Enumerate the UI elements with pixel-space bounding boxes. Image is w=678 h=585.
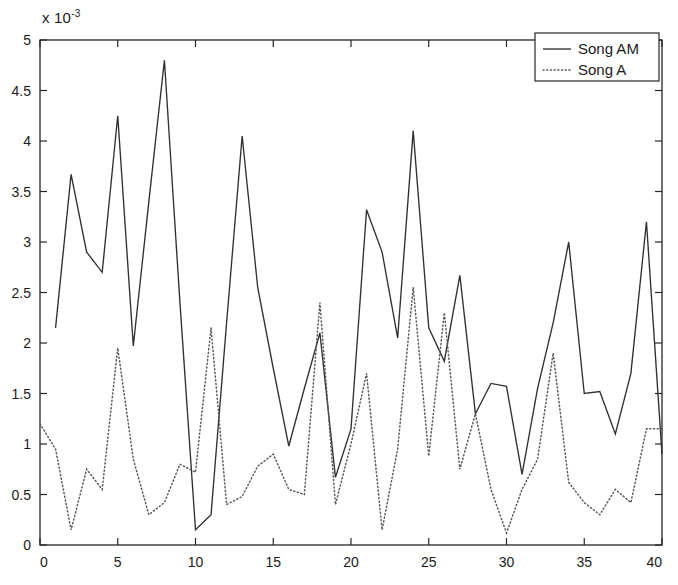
x-tick-label: 5	[114, 554, 122, 570]
y-tick-label: 1.5	[12, 386, 32, 402]
x-tick-label: 15	[265, 554, 281, 570]
y-tick-label: 0.5	[12, 487, 32, 503]
line-chart-svg: 0510152025303540 00.511.522.533.544.55 S…	[0, 0, 678, 585]
y-tick-label: 2	[23, 335, 31, 351]
chart-legend: Song AMSong A	[535, 33, 659, 81]
x-tick-label: 0	[40, 554, 48, 570]
legend-label: Song AM	[578, 40, 639, 57]
x-tick-label: 30	[499, 554, 515, 570]
y-tick-label: 4.5	[12, 83, 32, 99]
y-tick-label: 4	[23, 133, 31, 149]
y-tick-label: 1	[23, 436, 31, 452]
plot-frame	[40, 40, 662, 545]
y-tick-label: 3	[23, 234, 31, 250]
y-tick-label: 2.5	[12, 285, 32, 301]
chart-figure: x 10-3 0510152025303540 00.511.522.533.5…	[0, 0, 678, 585]
x-tick-label: 10	[188, 554, 204, 570]
y-tick-label: 5	[23, 32, 31, 48]
y-tick-label: 0	[23, 537, 31, 553]
plot-area-border	[40, 40, 662, 545]
x-tick-label: 35	[576, 554, 592, 570]
legend-label: Song A	[578, 61, 626, 78]
x-tick-label: 25	[421, 554, 437, 570]
y-tick-label: 3.5	[12, 184, 32, 200]
x-tick-label: 20	[343, 554, 359, 570]
x-tick-label: 40	[646, 554, 662, 570]
